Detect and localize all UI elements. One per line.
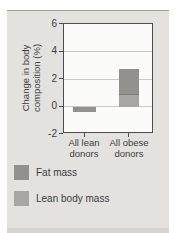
y-tick [59,51,63,52]
legend-label-fat-mass: Fat mass [36,167,77,179]
chart-plot-area [63,23,153,133]
y-tick-label: 6 [39,18,57,29]
bar-segment-lean-body-mass [119,94,139,106]
bar-segment-fat-mass [119,69,139,94]
y-tick [59,78,63,79]
y-tick-label: 4 [39,45,57,56]
x-tick [84,133,85,137]
y-tick-label: 0 [39,100,57,111]
x-category-label-lean: All lean donors [60,138,108,159]
y-tick-label: -2 [39,128,57,139]
y-tick [59,23,63,24]
panel-bottom-edge [7,228,169,233]
y-tick-label: 2 [39,73,57,84]
legend-label-lean-body-mass: Lean body mass [36,193,109,205]
y-tick [59,133,63,134]
y-tick [59,106,63,107]
y-axis-label-line1: Change in body [20,23,31,133]
x-category-label-obese: All obese donors [105,138,153,159]
x-tick [128,133,129,137]
legend-swatch-lean-body-mass [14,191,29,206]
legend-swatch-fat-mass [14,165,29,180]
bar-segment-fat-mass [73,107,96,113]
figure-canvas: Change in body composition (%) All lean … [0,0,176,233]
gridline-4 [64,51,152,52]
